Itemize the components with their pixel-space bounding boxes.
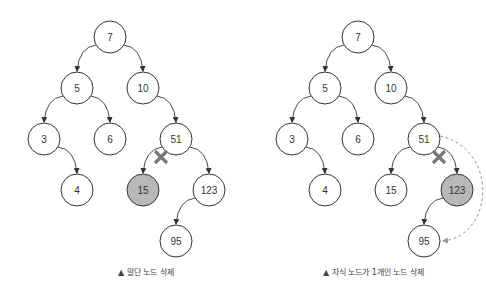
node-value: 10 bbox=[137, 83, 149, 94]
node-value: 123 bbox=[201, 185, 218, 196]
node-51: 51 bbox=[160, 123, 192, 155]
node-7: 7 bbox=[342, 21, 374, 53]
edge-7-10 bbox=[124, 45, 143, 71]
node-10: 10 bbox=[127, 72, 159, 104]
node-95: 95 bbox=[160, 225, 192, 257]
node-value: 7 bbox=[355, 32, 361, 43]
edge-51-15 bbox=[391, 147, 410, 173]
node-3: 3 bbox=[276, 123, 308, 155]
node-value: 7 bbox=[107, 32, 113, 43]
node-value: 4 bbox=[74, 185, 80, 196]
node-5: 5 bbox=[61, 72, 93, 104]
node-10: 10 bbox=[375, 72, 407, 104]
node-value: 3 bbox=[289, 134, 295, 145]
edge-5-6 bbox=[339, 96, 358, 122]
cut-x-icon bbox=[155, 151, 167, 163]
node-value: 51 bbox=[170, 134, 182, 145]
node-value: 15 bbox=[137, 185, 149, 196]
node-15: 15 bbox=[127, 174, 159, 206]
edge-7-10 bbox=[372, 45, 391, 71]
caption-one-child-delete: ▲ 자식 노드가 1개인 노드 삭제 bbox=[323, 266, 424, 277]
edge-10-51 bbox=[157, 96, 176, 122]
node-6: 6 bbox=[342, 123, 374, 155]
node-6: 6 bbox=[94, 123, 126, 155]
edge-3-4 bbox=[306, 147, 325, 173]
node-51: 51 bbox=[408, 123, 440, 155]
node-7: 7 bbox=[94, 21, 126, 53]
node-3: 3 bbox=[28, 123, 60, 155]
edge-7-5 bbox=[325, 45, 344, 71]
nodes-layer: 75103651415123957510365141512395 bbox=[28, 21, 473, 257]
edge-7-5 bbox=[77, 45, 96, 71]
node-value: 5 bbox=[322, 83, 328, 94]
node-value: 6 bbox=[107, 134, 113, 145]
caption-leaf-delete: ▲ 말단 노드 삭제 bbox=[118, 266, 174, 277]
node-value: 4 bbox=[322, 185, 328, 196]
node-123: 123 bbox=[193, 174, 225, 206]
node-15: 15 bbox=[375, 174, 407, 206]
node-value: 15 bbox=[385, 185, 397, 196]
node-95: 95 bbox=[408, 225, 440, 257]
node-value: 5 bbox=[74, 83, 80, 94]
node-value: 123 bbox=[449, 185, 466, 196]
edge-123-95 bbox=[176, 198, 195, 224]
cut-x-icon bbox=[433, 151, 445, 163]
node-value: 3 bbox=[41, 134, 47, 145]
edge-3-4 bbox=[58, 147, 77, 173]
node-4: 4 bbox=[309, 174, 341, 206]
node-value: 95 bbox=[170, 236, 182, 247]
node-value: 95 bbox=[418, 236, 430, 247]
node-5: 5 bbox=[309, 72, 341, 104]
node-123: 123 bbox=[441, 174, 473, 206]
edge-10-51 bbox=[405, 96, 424, 122]
edge-5-6 bbox=[91, 96, 110, 122]
node-value: 10 bbox=[385, 83, 397, 94]
node-value: 6 bbox=[355, 134, 361, 145]
edge-5-3 bbox=[292, 96, 311, 122]
node-value: 51 bbox=[418, 134, 430, 145]
edge-5-3 bbox=[44, 96, 63, 122]
edge-123-95 bbox=[424, 198, 443, 224]
edge-51-123 bbox=[190, 147, 209, 173]
bst-deletion-diagram: 75103651415123957510365141512395 bbox=[0, 0, 486, 288]
node-4: 4 bbox=[61, 174, 93, 206]
